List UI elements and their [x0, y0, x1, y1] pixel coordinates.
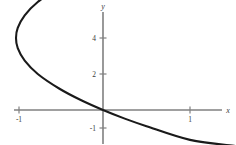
- y-tick-label-2: 2: [92, 70, 96, 79]
- parabola-plot: -1 1 4 2 -1 y x: [0, 0, 236, 145]
- plot-canvas: -1 1 4 2 -1 y x: [0, 0, 236, 145]
- y-axis-label: y: [100, 2, 105, 11]
- parabola-curve: [16, 0, 235, 145]
- x-tick-label-pos1: 1: [188, 115, 192, 124]
- y-tick-label-neg1: -1: [90, 124, 96, 133]
- x-tick-label-neg1: -1: [16, 115, 22, 124]
- x-axis-label: x: [225, 106, 230, 115]
- y-tick-label-4: 4: [92, 34, 96, 43]
